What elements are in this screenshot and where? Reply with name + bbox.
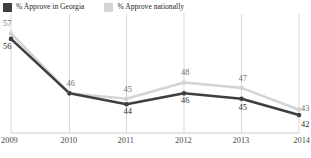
x-tick-2010: 2010 bbox=[61, 137, 78, 145]
legend-label-national: % Approve nationally bbox=[117, 3, 184, 11]
data-point bbox=[182, 80, 187, 85]
data-point bbox=[9, 37, 14, 42]
data-label-national-2014: 43 bbox=[301, 105, 309, 113]
data-point bbox=[182, 91, 187, 96]
plot-area bbox=[0, 14, 311, 134]
data-point bbox=[9, 31, 14, 36]
data-label-georgia-2012: 46 bbox=[181, 97, 189, 105]
data-label-georgia-2011: 44 bbox=[124, 108, 132, 116]
x-tick-2012: 2012 bbox=[175, 137, 192, 145]
legend-swatch-dark-icon bbox=[3, 3, 12, 12]
legend-label-georgia: % Approve in Georgia bbox=[16, 3, 84, 11]
data-label-national-2011: 45 bbox=[124, 86, 132, 94]
plot-svg bbox=[0, 14, 311, 134]
chart-container: % Approve in Georgia % Approve nationall… bbox=[0, 0, 311, 158]
data-label-georgia-2013: 45 bbox=[239, 104, 247, 112]
chart-legend: % Approve in Georgia % Approve nationall… bbox=[3, 1, 184, 13]
x-tick-2009: 2009 bbox=[1, 137, 18, 145]
data-point bbox=[239, 86, 244, 91]
legend-swatch-light-icon bbox=[104, 3, 113, 12]
data-label-georgia-2014: 42 bbox=[301, 121, 309, 129]
x-tick-2014: 2014 bbox=[293, 137, 310, 145]
data-label-national-2012: 48 bbox=[181, 69, 189, 77]
legend-item-national[interactable]: % Approve nationally bbox=[104, 1, 184, 13]
x-axis-tick-labels: 200920102011201220132014 bbox=[0, 137, 311, 153]
data-label-national-2013: 47 bbox=[239, 75, 247, 83]
x-tick-2013: 2013 bbox=[233, 137, 250, 145]
data-point bbox=[124, 96, 129, 101]
data-label-georgia-2009: 56 bbox=[3, 43, 11, 51]
data-label-national-2010: 46 bbox=[67, 80, 75, 88]
data-point bbox=[297, 113, 302, 118]
legend-item-georgia[interactable]: % Approve in Georgia bbox=[3, 1, 84, 13]
data-point bbox=[124, 102, 129, 107]
data-point bbox=[239, 96, 244, 101]
x-tick-2011: 2011 bbox=[118, 137, 134, 145]
data-point bbox=[67, 91, 72, 96]
data-label-national-2009: 57 bbox=[3, 20, 11, 28]
vertical-gridlines bbox=[11, 14, 299, 133]
